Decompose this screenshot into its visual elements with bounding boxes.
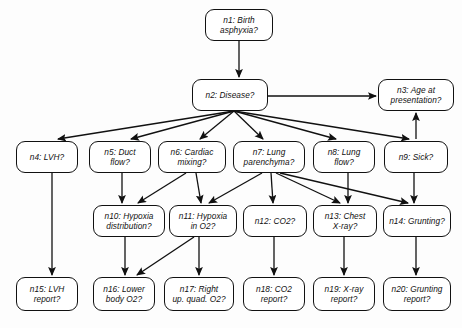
node-label-n18: n18: CO2 report? bbox=[248, 284, 300, 305]
node-label-n15: n15: LVH report? bbox=[21, 284, 73, 305]
node-n18[interactable]: n18: CO2 report? bbox=[243, 277, 305, 311]
node-n13[interactable]: n13: Chest X-ray? bbox=[313, 205, 377, 237]
node-n11[interactable]: n11: Hypoxia in O2? bbox=[169, 205, 237, 237]
node-n16[interactable]: n16: Lower body O2? bbox=[93, 277, 155, 311]
node-label-n4: n4: LVH? bbox=[21, 152, 73, 163]
node-label-n3: n3: Age at presentation? bbox=[383, 85, 449, 106]
node-label-n19: n19: X-ray report? bbox=[318, 284, 370, 305]
node-n10[interactable]: n10: Hypoxia distribution? bbox=[93, 205, 165, 237]
node-n12[interactable]: n12: CO2? bbox=[243, 205, 307, 237]
node-label-n20: n20: Grunting report? bbox=[388, 284, 446, 305]
node-label-n5: n5: Duct flow? bbox=[94, 147, 146, 168]
node-n7[interactable]: n7: Lung parenchyma? bbox=[233, 141, 305, 173]
node-n3[interactable]: n3: Age at presentation? bbox=[378, 79, 454, 111]
node-n5[interactable]: n5: Duct flow? bbox=[89, 141, 151, 173]
node-label-n1: n1: Birth asphyxia? bbox=[210, 15, 268, 36]
node-n14[interactable]: n14: Grunting? bbox=[383, 205, 451, 237]
node-n19[interactable]: n19: X-ray report? bbox=[313, 277, 375, 311]
node-label-n7: n7: Lung parenchyma? bbox=[238, 147, 300, 168]
node-label-n6: n6: Cardiac mixing? bbox=[163, 147, 221, 168]
node-label-n10: n10: Hypoxia distribution? bbox=[98, 211, 160, 232]
node-n20[interactable]: n20: Grunting report? bbox=[383, 277, 451, 311]
node-label-n9: n9: Sick? bbox=[389, 152, 443, 163]
node-label-n14: n14: Grunting? bbox=[388, 216, 446, 227]
node-label-n13: n13: Chest X-ray? bbox=[318, 211, 372, 232]
node-n9[interactable]: n9: Sick? bbox=[384, 141, 448, 173]
node-n1[interactable]: n1: Birth asphyxia? bbox=[205, 9, 273, 41]
diagram-canvas: n1: Birth asphyxia?n2: Disease?n3: Age a… bbox=[0, 0, 462, 328]
node-n15[interactable]: n15: LVH report? bbox=[16, 277, 78, 311]
node-label-n2: n2: Disease? bbox=[197, 90, 263, 101]
node-n17[interactable]: n17: Right up. quad. O2? bbox=[164, 277, 234, 311]
node-label-n17: n17: Right up. quad. O2? bbox=[169, 284, 229, 305]
node-n8[interactable]: n8: Lung flow? bbox=[313, 141, 375, 173]
node-label-n11: n11: Hypoxia in O2? bbox=[174, 211, 232, 232]
node-n2[interactable]: n2: Disease? bbox=[192, 79, 268, 111]
node-n4[interactable]: n4: LVH? bbox=[16, 141, 78, 173]
node-label-n8: n8: Lung flow? bbox=[318, 147, 370, 168]
node-label-n16: n16: Lower body O2? bbox=[98, 284, 150, 305]
node-layer: n1: Birth asphyxia?n2: Disease?n3: Age a… bbox=[0, 0, 462, 328]
node-n6[interactable]: n6: Cardiac mixing? bbox=[158, 141, 226, 173]
node-label-n12: n12: CO2? bbox=[248, 216, 302, 227]
